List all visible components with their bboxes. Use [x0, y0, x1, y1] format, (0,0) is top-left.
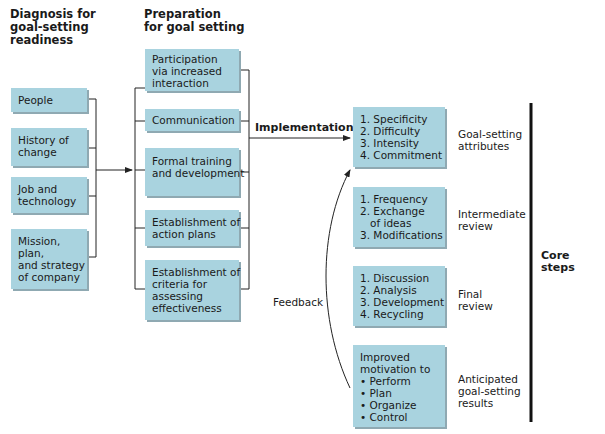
feedback-label: Feedback — [273, 296, 323, 308]
box-text: Improved — [360, 351, 438, 363]
diagnosis-box-job: Job and technology — [11, 177, 87, 213]
box-text: of company — [18, 271, 80, 283]
core-label-intermediate: Intermediate review — [458, 208, 526, 232]
box-text: History of — [18, 134, 80, 146]
label-line: review — [458, 220, 526, 232]
diagnosis-box-history: History of change — [11, 128, 87, 166]
box-text: 1. Discussion — [360, 272, 438, 284]
core-label-final: Final review — [458, 288, 493, 312]
header-preparation: Preparation for goal setting — [144, 8, 244, 34]
prep-box-participation: Participation via increased interaction — [145, 49, 239, 91]
box-text: and development — [152, 167, 232, 179]
box-text: 3. Modifications — [360, 229, 438, 241]
box-text: Job and — [18, 183, 80, 195]
header-diagnosis: Diagnosis for goal-setting readiness — [10, 8, 96, 47]
box-text: via increased — [152, 65, 232, 77]
box-text: 4. Commitment — [360, 149, 438, 161]
box-text: action plans — [152, 228, 232, 240]
header-line: for goal setting — [144, 21, 244, 34]
header-line: readiness — [10, 34, 96, 47]
box-text: Establishment of — [152, 266, 232, 278]
box-text: plan, — [18, 247, 80, 259]
box-text: motivation to — [360, 363, 438, 375]
box-text: Mission, — [18, 235, 80, 247]
box-text: • Plan — [360, 387, 438, 399]
core-steps-label: Core steps — [541, 250, 605, 274]
box-text: assessing — [152, 290, 232, 302]
label-line: goal-setting — [458, 385, 521, 397]
box-text: 1. Specificity — [360, 113, 438, 125]
label-line: Goal-setting — [458, 128, 522, 140]
label-line: Final — [458, 288, 493, 300]
prep-box-communication: Communication — [145, 109, 239, 131]
prep-box-action-plans: Establishment of action plans — [145, 210, 239, 246]
box-text: 1. Frequency — [360, 193, 438, 205]
core-box-attributes: 1. Specificity 2. Difficulty 3. Intensit… — [353, 107, 445, 167]
box-text: interaction — [152, 77, 232, 89]
box-text: technology — [18, 195, 80, 207]
label-line: Anticipated — [458, 373, 521, 385]
label-line: results — [458, 397, 521, 409]
box-text: 2. Exchange — [360, 205, 438, 217]
core-label-results: Anticipated goal-setting results — [458, 373, 521, 409]
box-text: • Organize — [360, 399, 438, 411]
box-text: change — [18, 146, 80, 158]
core-box-results: Improved motivation to • Perform • Plan … — [353, 345, 445, 427]
core-label-attributes: Goal-setting attributes — [458, 128, 522, 152]
box-text: 3. Development — [360, 296, 438, 308]
box-text: • Perform — [360, 375, 438, 387]
prep-box-training: Formal training and development — [145, 148, 239, 196]
label-line: attributes — [458, 140, 522, 152]
box-text: 4. Recycling — [360, 308, 438, 320]
box-text: • Control — [360, 411, 438, 423]
box-text: Communication — [152, 114, 232, 126]
label-line: Intermediate — [458, 208, 526, 220]
box-text: 3. Intensity — [360, 137, 438, 149]
box-text: criteria for — [152, 278, 232, 290]
box-text: Establishment of — [152, 216, 232, 228]
box-text: 2. Difficulty — [360, 125, 438, 137]
box-text: People — [18, 94, 80, 106]
box-text: Participation — [152, 53, 232, 65]
box-text: Formal training — [152, 155, 232, 167]
diagnosis-box-people: People — [11, 88, 87, 112]
box-text: and strategy — [18, 259, 80, 271]
diagnosis-box-mission: Mission, plan, and strategy of company — [11, 229, 87, 289]
box-text: 2. Analysis — [360, 284, 438, 296]
implementation-label: Implementation — [255, 122, 354, 134]
prep-box-criteria: Establishment of criteria for assessing … — [145, 260, 239, 320]
core-box-final: 1. Discussion 2. Analysis 3. Development… — [353, 266, 445, 326]
box-text: of ideas — [360, 217, 438, 229]
core-box-intermediate: 1. Frequency 2. Exchange of ideas 3. Mod… — [353, 187, 445, 247]
box-text: effectiveness — [152, 302, 232, 314]
label-line: review — [458, 300, 493, 312]
